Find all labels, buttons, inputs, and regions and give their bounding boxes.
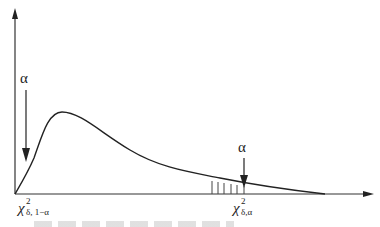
left-critical-value-label: χ 2 δ, 1−α (18, 199, 58, 221)
chi-symbol: χ (18, 200, 25, 216)
chi-symbol: χ (233, 200, 240, 216)
right-critical-value-label: χ 2 δ,α (233, 199, 273, 221)
chi-square-diagram: α α χ 2 δ, 1−α χ 2 δ,α (0, 0, 380, 227)
left-arrow-icon (22, 90, 30, 162)
superscript: 2 (26, 196, 31, 206)
density-curve (15, 112, 325, 194)
subscript: δ,α (241, 207, 252, 217)
hatched-region (212, 181, 244, 194)
right-alpha-label: α (238, 140, 246, 155)
y-axis (12, 8, 18, 194)
diagram-graphics (0, 0, 380, 227)
cutoff-caption-band (34, 221, 234, 227)
superscript: 2 (241, 196, 246, 206)
left-alpha-label: α (20, 71, 28, 86)
subscript: δ, 1−α (26, 207, 49, 217)
